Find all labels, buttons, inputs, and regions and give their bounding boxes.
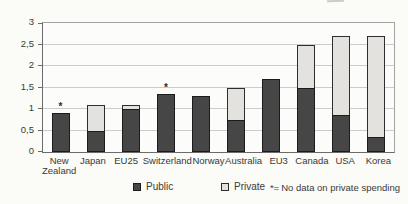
no-data-asterisk-icon: * bbox=[164, 83, 168, 93]
bar-public-segment bbox=[52, 113, 70, 152]
bar-new-zealand: * bbox=[43, 23, 78, 152]
bar-private-segment bbox=[87, 105, 105, 131]
bar-public-segment bbox=[297, 88, 315, 153]
y-axis-tick-label: 1 bbox=[29, 102, 34, 114]
bars-layer: ** bbox=[43, 23, 394, 152]
bar-stack bbox=[332, 36, 350, 152]
bar-public-segment bbox=[227, 120, 245, 152]
y-axis-tick-mark bbox=[38, 65, 42, 66]
chart-legend-row: Public Private *=No data on private spen… bbox=[0, 180, 408, 196]
bar-usa bbox=[324, 23, 359, 152]
y-axis-tick-label: 1,5 bbox=[21, 81, 34, 93]
x-axis-label-eu25: EU25 bbox=[110, 156, 143, 177]
bar-stack bbox=[87, 105, 105, 152]
bar-stack bbox=[262, 79, 280, 152]
stacked-bar-chart: 00,511,522,53 ** New ZealandJapanEU25Swi… bbox=[0, 0, 408, 204]
y-axis-tick-mark bbox=[38, 44, 42, 45]
x-axis-label-australia: Australia bbox=[225, 156, 262, 177]
no-data-asterisk-icon: * bbox=[59, 102, 63, 112]
bar-private-segment bbox=[332, 36, 350, 116]
bar-public-segment bbox=[87, 131, 105, 153]
bar-stack bbox=[192, 96, 210, 152]
bar-public-segment bbox=[367, 137, 385, 152]
bar-public-segment bbox=[157, 94, 175, 152]
y-axis-tick-label: 0,5 bbox=[21, 124, 34, 136]
bar-public-segment bbox=[332, 115, 350, 152]
y-axis-tick-label: 0 bbox=[29, 145, 34, 157]
y-axis-tick-mark bbox=[38, 151, 42, 152]
private-swatch-icon bbox=[221, 183, 229, 191]
x-axis: New ZealandJapanEU25SwitzerlandNorwayAus… bbox=[42, 156, 395, 177]
x-axis-label-korea: Korea bbox=[362, 156, 395, 177]
y-axis-tick-label: 3 bbox=[29, 16, 34, 28]
x-axis-label-canada: Canada bbox=[295, 156, 328, 177]
chart-footnote: *=No data on private spending bbox=[270, 182, 400, 193]
footnote-text: No data on private spending bbox=[281, 182, 400, 193]
y-axis-tick-label: 2,5 bbox=[21, 38, 34, 50]
bar-public-segment bbox=[262, 79, 280, 152]
bar-stack bbox=[367, 36, 385, 152]
legend-private-label: Private bbox=[234, 181, 265, 192]
bar-private-segment bbox=[227, 88, 245, 120]
bar-eu25 bbox=[113, 23, 148, 152]
bar-private-segment bbox=[367, 36, 385, 137]
bar-stack bbox=[297, 45, 315, 153]
bar-canada bbox=[289, 23, 324, 152]
legend-item-private: Private bbox=[221, 181, 265, 192]
y-axis: 00,511,522,53 bbox=[0, 22, 37, 153]
bar-stack bbox=[52, 113, 70, 152]
legend-public-label: Public bbox=[146, 181, 173, 192]
x-axis-label-switzerland: Switzerland bbox=[143, 156, 192, 177]
bar-stack bbox=[157, 94, 175, 152]
x-axis-label-japan: Japan bbox=[76, 156, 109, 177]
public-swatch-icon bbox=[133, 183, 141, 191]
bar-norway bbox=[183, 23, 218, 152]
scan-artifact bbox=[327, 0, 344, 2]
y-axis-tick-label: 2 bbox=[29, 59, 34, 71]
bar-public-segment bbox=[122, 109, 140, 152]
x-axis-label-new-zealand: New Zealand bbox=[42, 156, 76, 177]
footnote-asterisk-icon: *= bbox=[270, 182, 279, 193]
y-axis-tick-mark bbox=[38, 108, 42, 109]
bar-eu3 bbox=[254, 23, 289, 152]
bar-japan bbox=[78, 23, 113, 152]
bar-public-segment bbox=[192, 96, 210, 152]
bar-private-segment bbox=[297, 45, 315, 88]
bar-stack bbox=[122, 105, 140, 152]
x-axis-label-eu3: EU3 bbox=[262, 156, 295, 177]
bar-australia bbox=[218, 23, 253, 152]
legend-item-public: Public bbox=[133, 181, 173, 192]
y-axis-tick-mark bbox=[38, 23, 42, 24]
bar-korea bbox=[359, 23, 394, 152]
y-axis-tick-mark bbox=[38, 130, 42, 131]
plot-area: ** bbox=[42, 22, 395, 153]
y-axis-tick-mark bbox=[38, 87, 42, 88]
bar-stack bbox=[227, 88, 245, 153]
x-axis-label-usa: USA bbox=[329, 156, 362, 177]
bar-switzerland: * bbox=[148, 23, 183, 152]
x-axis-label-norway: Norway bbox=[192, 156, 225, 177]
